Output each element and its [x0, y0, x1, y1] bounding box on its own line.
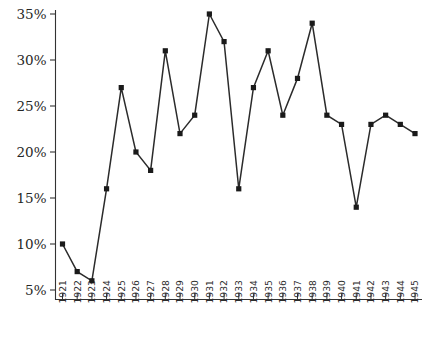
data-point-marker: 1925: 27% — [119, 85, 124, 90]
x-axis-tick-label: 1943 — [380, 280, 391, 304]
data-line-series — [63, 14, 416, 281]
data-point-marker-group: 1921: 10%1922: 7%1923: 6%1924: 16%1925: … — [60, 11, 418, 283]
x-axis-tick-label: 1926 — [130, 280, 141, 304]
y-axis-tick-label: 15% — [16, 190, 46, 206]
data-point-marker: 1926: 20% — [133, 149, 138, 154]
x-axis-tick-label: 1936 — [277, 280, 288, 304]
y-axis-tick-label-group: 35%30%25%20%15%10%5% — [16, 6, 46, 298]
data-point-marker: 1931: 35% — [207, 11, 212, 16]
data-point-marker: 1922: 7% — [75, 269, 80, 274]
x-axis-tick-label: 1923 — [86, 280, 97, 304]
x-axis-tick-label: 1940 — [336, 280, 347, 304]
y-axis-tick-marks — [50, 14, 56, 290]
data-point-marker: 1923: 6% — [89, 278, 94, 283]
x-axis-tick-label: 1922 — [72, 280, 83, 303]
x-axis-tick-label: 1928 — [160, 280, 171, 304]
x-axis-tick-label: 1932 — [218, 280, 229, 303]
data-point-marker: 1936: 24% — [280, 113, 285, 118]
x-axis-tick-label: 1945 — [409, 280, 420, 304]
data-point-marker: 1944: 23% — [398, 122, 403, 127]
x-axis-tick-label: 1929 — [174, 280, 185, 304]
data-point-marker: 1945: 22% — [412, 131, 417, 136]
data-point-marker: 1924: 16% — [104, 186, 109, 191]
x-axis-tick-label: 1927 — [145, 280, 156, 304]
data-point-marker: 1930: 24% — [192, 113, 197, 118]
x-axis-tick-label: 1933 — [233, 280, 244, 304]
data-point-marker: 1921: 10% — [60, 241, 65, 246]
data-point-marker: 1929: 22% — [177, 131, 182, 136]
x-axis-tick-label: 1942 — [365, 280, 376, 303]
x-axis-tick-label: 1939 — [321, 280, 332, 304]
x-axis-tick-label: 1935 — [263, 280, 274, 304]
data-point-marker: 1932: 32% — [221, 39, 226, 44]
x-axis-tick-label-group: 1921192219231924192519261927192819291930… — [57, 280, 421, 304]
x-axis-tick-label: 1934 — [248, 280, 259, 304]
data-point-marker: 1941: 14% — [354, 205, 359, 210]
figure-caption — [4, 345, 432, 356]
data-point-marker: 1942: 23% — [368, 122, 373, 127]
y-axis-tick-label: 35% — [16, 6, 46, 22]
x-axis-tick-label: 1924 — [101, 280, 112, 304]
y-axis-tick-label: 25% — [16, 98, 46, 114]
line-chart: 35%30%25%20%15%10%5% 1921192219231924192… — [0, 0, 432, 356]
data-point-marker: 1933: 16% — [236, 186, 241, 191]
x-axis-tick-label: 1944 — [395, 280, 406, 304]
y-axis-tick-label: 30% — [16, 52, 46, 68]
x-axis-tick-label: 1921 — [57, 280, 68, 303]
x-axis-tick-label: 1938 — [307, 280, 318, 304]
data-point-marker: 1943: 24% — [383, 113, 388, 118]
y-axis-tick-label: 10% — [16, 236, 46, 252]
x-axis-tick-label: 1925 — [116, 280, 127, 304]
data-point-marker: 1940: 23% — [339, 122, 344, 127]
data-point-marker: 1937: 28% — [295, 76, 300, 81]
data-point-marker: 1935: 31% — [266, 48, 271, 53]
data-point-marker: 1927: 18% — [148, 168, 153, 173]
data-point-marker: 1939: 24% — [324, 113, 329, 118]
chart-figure: 35%30%25%20%15%10%5% 1921192219231924192… — [0, 0, 432, 356]
data-point-marker: 1934: 27% — [251, 85, 256, 90]
data-point-marker: 1928: 31% — [163, 48, 168, 53]
x-axis-tick-label: 1937 — [292, 280, 303, 304]
y-axis-tick-label: 20% — [16, 144, 46, 160]
x-axis-tick-label: 1931 — [204, 280, 215, 303]
x-axis-tick-label: 1941 — [351, 280, 362, 303]
y-axis-tick-label: 5% — [25, 282, 47, 298]
x-axis-tick-label: 1930 — [189, 280, 200, 304]
data-point-marker: 1938: 34% — [310, 21, 315, 26]
